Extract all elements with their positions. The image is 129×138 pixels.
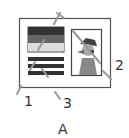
page-layout-diagram: [0, 0, 129, 138]
label-1: 1: [24, 94, 33, 108]
label-2: 2: [115, 58, 124, 72]
label-3: 3: [63, 96, 72, 110]
diagram-caption: A: [58, 122, 68, 136]
picture-block: [72, 30, 102, 76]
text-block: [28, 27, 64, 75]
